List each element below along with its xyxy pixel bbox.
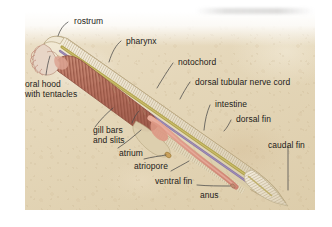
label-atrium: atrium (119, 148, 143, 158)
leader-rostrum (58, 22, 68, 36)
label-rostrum: rostrum (74, 16, 103, 26)
dorsal-fin-shape (62, 38, 260, 180)
label-gill-bars-line2: and slits (93, 135, 125, 145)
leader-intestine (204, 105, 210, 130)
label-dorsal-tubular-nerve-cord: dorsal tubular nerve cord (195, 77, 290, 87)
leader-nerve-cord (180, 82, 190, 99)
leader-ventral-fin (171, 161, 189, 171)
caudal-fin-shape (244, 170, 288, 206)
leader-anus (197, 185, 230, 186)
label-intestine: intestine (215, 99, 247, 109)
label-caudal-fin: caudal fin (268, 140, 305, 150)
label-ventral-fin: ventral fin (155, 176, 192, 186)
label-notochord: notochord (178, 57, 216, 67)
label-atriopore: atriopore (134, 161, 168, 171)
leader-dorsal-fin (224, 120, 231, 131)
leader-notochord (157, 63, 173, 88)
label-gill-bars-line1: gill bars (93, 125, 123, 135)
figure-container: rostrum pharynx notochord dorsal tubular… (0, 0, 332, 227)
label-dorsal-fin: dorsal fin (236, 114, 271, 124)
leader-pharynx (109, 41, 121, 62)
label-oral-hood-line2: with tentacles (25, 89, 77, 99)
label-pharynx: pharynx (126, 36, 157, 46)
label-anus: anus (200, 190, 219, 200)
lancelet-illustration (0, 0, 332, 227)
label-oral-hood-line1: oral hood (25, 79, 61, 89)
